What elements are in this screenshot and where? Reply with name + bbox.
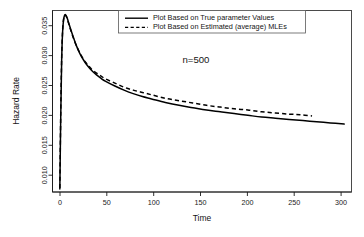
chart-figure: 0.010 0.015 0.020 0.025 0.030 0.035 Haza… xyxy=(0,0,364,237)
x-tick-label-3: 150 xyxy=(195,198,207,207)
y-tick-label-3: 0.025 xyxy=(40,77,49,95)
chart-background xyxy=(0,0,364,237)
x-tick-label-6: 300 xyxy=(335,198,347,207)
chart-legend: Plot Based on True parameter Values Plot… xyxy=(119,11,306,34)
x-tick-label-5: 250 xyxy=(288,198,300,207)
x-axis-title: Time xyxy=(193,213,212,223)
y-tick-label-2: 0.020 xyxy=(40,106,49,124)
x-tick-label-4: 200 xyxy=(241,198,253,207)
legend-label-0: Plot Based on True parameter Values xyxy=(153,13,274,22)
sample-size-annotation: n=500 xyxy=(183,54,210,65)
x-tick-label-1: 50 xyxy=(103,198,111,207)
hazard-rate-line-chart: 0.010 0.015 0.020 0.025 0.030 0.035 Haza… xyxy=(0,0,364,237)
x-tick-label-0: 0 xyxy=(58,198,62,207)
y-tick-label-1: 0.015 xyxy=(40,136,49,154)
x-tick-label-2: 100 xyxy=(148,198,160,207)
y-tick-label-0: 0.010 xyxy=(40,166,49,184)
y-axis-title: Hazard Rate xyxy=(11,77,21,125)
y-tick-label-4: 0.030 xyxy=(40,47,49,65)
y-tick-label-5: 0.035 xyxy=(40,17,49,35)
legend-label-1: Plot Based on Estimated (average) MLEs xyxy=(153,22,287,31)
